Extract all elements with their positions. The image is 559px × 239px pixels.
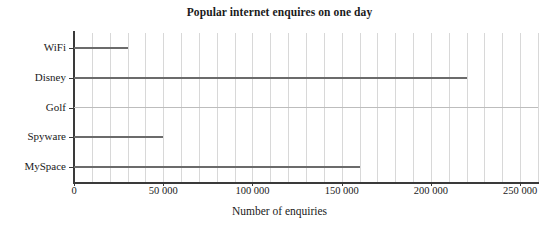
y-axis-label-wifi: WiFi <box>0 42 66 53</box>
x-axis-tick-label: 100 000 <box>235 185 269 196</box>
y-axis-label-golf: Golf <box>0 102 66 113</box>
bar-wifi[interactable] <box>74 47 128 49</box>
gridline-vertical <box>538 33 539 182</box>
bar-golf[interactable] <box>74 107 538 109</box>
y-axis-labels: WiFiDisneyGolfSpywareMySpace <box>0 0 74 239</box>
y-axis-label-disney: Disney <box>0 72 66 83</box>
y-axis-label-spyware: Spyware <box>0 131 66 142</box>
x-axis-tick-label: 0 <box>71 185 76 196</box>
x-axis-tick-label: 250 000 <box>503 185 537 196</box>
chart-title: Popular internet enquires on one day <box>0 6 559 18</box>
y-axis-tick <box>69 108 74 109</box>
y-axis-label-myspace: MySpace <box>0 161 66 172</box>
y-axis-tick <box>69 137 74 138</box>
x-axis-tick-label: 150 000 <box>325 185 359 196</box>
x-axis-line <box>73 182 539 184</box>
bar-myspace[interactable] <box>74 166 360 168</box>
x-axis-title: Number of enquiries <box>0 205 559 217</box>
plot-area <box>74 33 538 182</box>
y-axis-tick <box>69 78 74 79</box>
bar-spyware[interactable] <box>74 136 163 138</box>
bar-disney[interactable] <box>74 77 467 79</box>
x-axis-tick-label: 50 000 <box>149 185 178 196</box>
x-axis-tick-label: 200 000 <box>414 185 448 196</box>
chart-container: Popular internet enquires on one day WiF… <box>0 0 559 239</box>
y-axis-tick <box>69 48 74 49</box>
y-axis-tick <box>69 167 74 168</box>
